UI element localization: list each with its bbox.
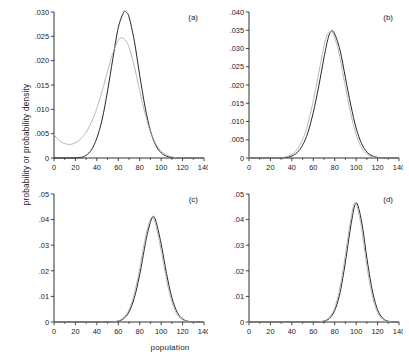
- curve-solid: [54, 11, 204, 158]
- y-tick-label: .025: [230, 62, 244, 71]
- y-tick-label: .015: [35, 81, 49, 90]
- y-tick-label: .02: [39, 267, 49, 276]
- y-tick-label: .025: [35, 32, 49, 41]
- y-tick-label: .015: [230, 99, 244, 108]
- y-tick-label: .01: [234, 292, 244, 301]
- curve-solid: [249, 203, 399, 322]
- x-tick-label: 40: [288, 163, 296, 172]
- panel-label: (c): [189, 195, 199, 204]
- x-tick-label: 100: [350, 163, 362, 172]
- curve-dotted: [54, 38, 204, 158]
- y-tick-label: .02: [234, 267, 244, 276]
- x-tick-label: 0: [247, 327, 251, 336]
- figure-container: probability or probability density 02040…: [0, 0, 409, 360]
- x-tick-label: 140: [393, 163, 403, 172]
- panel-b: 0204060801001201400.005.010.015.020.025.…: [213, 4, 403, 180]
- y-tick-label: 0: [240, 318, 244, 327]
- x-tick-label: 100: [350, 327, 362, 336]
- x-tick-label: 40: [93, 327, 101, 336]
- curve-dotted: [249, 203, 399, 322]
- y-tick-label: .030: [230, 44, 244, 53]
- y-tick-label: .01: [39, 292, 49, 301]
- panel-d-plot: 0204060801001201400.01.02.03.04.05(d): [213, 186, 403, 344]
- x-tick-label: 40: [288, 327, 296, 336]
- x-tick-label: 40: [93, 163, 101, 172]
- y-tick-label: .04: [39, 215, 49, 224]
- x-tick-label: 60: [114, 163, 122, 172]
- x-tick-label: 20: [266, 327, 274, 336]
- x-tick-label: 80: [136, 327, 144, 336]
- panel-label: (a): [188, 13, 198, 22]
- x-tick-label: 100: [155, 163, 167, 172]
- x-tick-label: 80: [136, 163, 144, 172]
- x-tick-label: 60: [309, 327, 317, 336]
- x-tick-label: 140: [393, 327, 403, 336]
- x-tick-label: 100: [155, 327, 167, 336]
- y-tick-label: .020: [35, 56, 49, 65]
- x-tick-label: 120: [176, 327, 188, 336]
- x-tick-label: 140: [198, 163, 208, 172]
- y-tick-label: .030: [35, 8, 49, 17]
- curve-dotted: [249, 31, 399, 158]
- y-tick-label: .005: [35, 129, 49, 138]
- y-tick-label: .010: [35, 105, 49, 114]
- y-tick-label: .05: [234, 190, 244, 199]
- x-tick-label: 80: [331, 163, 339, 172]
- y-tick-label: .05: [39, 190, 49, 199]
- y-tick-label: .03: [234, 241, 244, 250]
- panel-a: 0204060801001201400.005.010.015.020.025.…: [20, 4, 208, 180]
- x-tick-label: 80: [331, 327, 339, 336]
- y-tick-label: .020: [230, 81, 244, 90]
- y-tick-label: .04: [234, 215, 244, 224]
- panel-label: (b): [383, 13, 393, 22]
- curve-dotted: [54, 217, 204, 322]
- panel-a-plot: 0204060801001201400.005.010.015.020.025.…: [20, 4, 208, 180]
- x-tick-label: 20: [71, 327, 79, 336]
- panel-c: 0204060801001201400.01.02.03.04.05(c): [20, 186, 208, 344]
- panel-d: 0204060801001201400.01.02.03.04.05(d): [213, 186, 403, 344]
- y-tick-label: .040: [230, 8, 244, 17]
- y-tick-label: .035: [230, 26, 244, 35]
- panel-b-plot: 0204060801001201400.005.010.015.020.025.…: [213, 4, 403, 180]
- x-tick-label: 120: [176, 163, 188, 172]
- x-tick-label: 20: [71, 163, 79, 172]
- y-tick-label: .03: [39, 241, 49, 250]
- y-tick-label: 0: [45, 154, 49, 163]
- panel-c-plot: 0204060801001201400.01.02.03.04.05(c): [20, 186, 208, 344]
- x-tick-label: 0: [247, 163, 251, 172]
- figure-x-axis-label: population: [0, 343, 340, 352]
- curve-solid: [249, 31, 399, 158]
- curve-solid: [54, 216, 204, 322]
- y-tick-label: .005: [230, 135, 244, 144]
- y-tick-label: 0: [45, 318, 49, 327]
- x-tick-label: 0: [52, 327, 56, 336]
- panel-label: (d): [383, 195, 393, 204]
- x-tick-label: 0: [52, 163, 56, 172]
- x-tick-label: 120: [371, 163, 383, 172]
- y-tick-label: 0: [240, 154, 244, 163]
- x-tick-label: 60: [309, 163, 317, 172]
- x-tick-label: 140: [198, 327, 208, 336]
- x-tick-label: 20: [266, 163, 274, 172]
- y-tick-label: .010: [230, 117, 244, 126]
- x-tick-label: 60: [114, 327, 122, 336]
- x-tick-label: 120: [371, 327, 383, 336]
